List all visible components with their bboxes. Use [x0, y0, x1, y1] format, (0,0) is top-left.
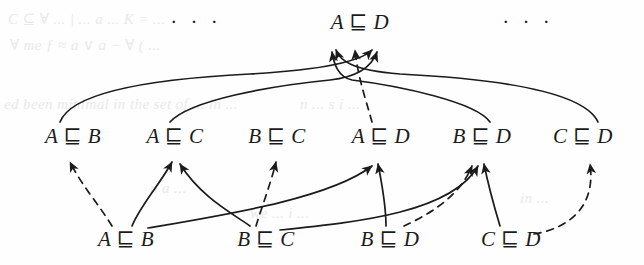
- right-ellipsis: · · ·: [502, 10, 553, 35]
- arrow-bCD-to-mBD: [484, 164, 500, 226]
- node-middle-B-subsumes-C: B ⊑ C: [248, 124, 306, 149]
- node-middle-B-subsumes-D: B ⊑ D: [453, 124, 512, 149]
- node-middle-C-subsumes-D: C ⊑ D: [553, 124, 613, 149]
- node-middle-A-subsumes-C: A ⊑ C: [146, 124, 203, 149]
- figure-canvas: C ⊆ ∀ ... | ... a ... K = ... ∀ me ƒ ≈ a…: [0, 0, 644, 265]
- arrow-bBC-to-mBC-dashed: [256, 162, 276, 226]
- arrow-bCD-to-mCD-dashed: [534, 164, 591, 234]
- node-bottom-B-subsumes-D: B ⊑ D: [361, 227, 420, 252]
- arrow-bAB-to-mAB-dashed: [70, 162, 112, 226]
- arrow-mAD-to-top-dashed: [355, 50, 372, 122]
- node-bottom-B-subsumes-C: B ⊑ C: [237, 227, 295, 252]
- arrow-bAB-to-mAC: [132, 162, 172, 226]
- node-top-A-subsumes-D: A ⊑ D: [331, 10, 389, 35]
- arrow-mBD-to-top: [332, 52, 490, 122]
- node-bottom-A-subsumes-B: A ⊑ B: [98, 227, 154, 252]
- node-bottom-C-subsumes-D: C ⊑ D: [481, 227, 541, 252]
- node-middle-A-subsumes-D: A ⊑ D: [352, 124, 410, 149]
- arrow-mCD-to-top: [336, 50, 598, 122]
- arrow-mAB-to-top: [60, 50, 372, 122]
- node-middle-A-subsumes-B: A ⊑ B: [45, 124, 101, 149]
- arrow-bAB-to-mAD: [148, 166, 372, 228]
- arrow-bBD-to-mBD-dashed: [404, 166, 472, 226]
- left-ellipsis: · · ·: [170, 10, 221, 35]
